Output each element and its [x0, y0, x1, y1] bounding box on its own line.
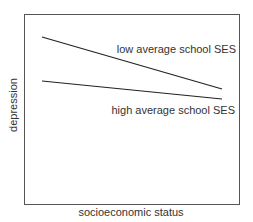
- series-label-low: low average school SES: [117, 43, 236, 55]
- series-label-high: high average school SES: [111, 104, 235, 116]
- y-axis-label: depression: [7, 78, 19, 132]
- x-axis-label: socioeconomic status: [78, 206, 184, 218]
- line-high-ses: [42, 81, 222, 99]
- chart: low average school SES high average scho…: [0, 0, 253, 222]
